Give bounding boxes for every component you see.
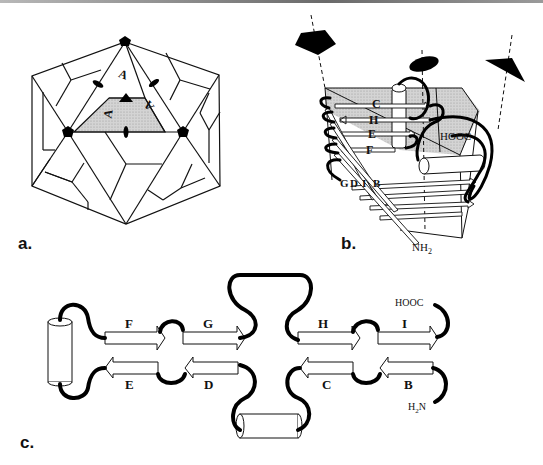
twofold-ellipse-icon: [124, 126, 129, 138]
strand-h: [298, 326, 360, 350]
panel-c-helices: [48, 318, 302, 438]
strand-b: [380, 357, 433, 378]
strand-label-e: E: [125, 377, 134, 392]
helix-bottom: [240, 414, 298, 438]
strand-label-h: H: [369, 113, 379, 127]
strand-label-c: C: [322, 377, 331, 392]
panel-b-label: b.: [341, 234, 356, 253]
strand-label-f: F: [125, 316, 133, 331]
threefold-triangle-icon: [485, 58, 525, 82]
subunit-label: A: [117, 66, 130, 82]
panel-c-label: c.: [20, 433, 34, 452]
panel-a-label: a.: [18, 234, 32, 253]
panel-c-strands: [105, 326, 438, 378]
fivefold-pentagon-icon: [295, 30, 336, 55]
twofold-ellipse-icon: [408, 53, 441, 74]
strand-label-g: G: [340, 177, 349, 189]
strand-label-e: E: [368, 127, 376, 141]
helix-left: [48, 322, 72, 382]
c-terminus-label: HOOC: [440, 130, 471, 142]
strand-f: [105, 326, 165, 350]
strand-c: [300, 357, 353, 378]
strand-label-d: D: [204, 377, 213, 392]
strand-label-b: B: [373, 177, 381, 189]
strand-label-i: I: [362, 177, 366, 189]
strand-e: [105, 357, 158, 378]
panel-c-loops: [60, 275, 448, 430]
strand-label-c: C: [372, 97, 381, 111]
strand-i: [378, 326, 438, 350]
strand-label-i: I: [402, 316, 407, 331]
twofold-ellipse-icon: [92, 79, 105, 89]
n-terminus-label: H2N: [408, 401, 426, 415]
c-terminus-label: HOOC: [395, 297, 424, 308]
fivefold-pentagon-icon: [119, 36, 131, 46]
strand-d: [185, 357, 238, 378]
strand-g: [183, 326, 245, 350]
n-terminus-label: NH2: [412, 241, 432, 256]
strand-label-d: D: [350, 177, 358, 189]
fivefold-pentagon-icon: [62, 126, 74, 137]
strand-label-h: H: [318, 316, 328, 331]
fivefold-pentagon-icon: [177, 126, 189, 137]
strand-label-b: B: [404, 377, 413, 392]
panel-b-symmetry-symbols: [295, 30, 525, 82]
figure-canvas: A A A a.: [0, 0, 543, 465]
strand-label-f: F: [366, 143, 373, 157]
panel-c-labels: F G H I E D C B HOOC H2N: [125, 297, 426, 415]
strand-label-g: G: [203, 316, 213, 331]
